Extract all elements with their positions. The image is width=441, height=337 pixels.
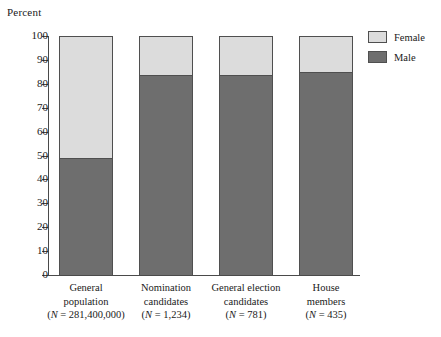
- stacked-bar[interactable]: [59, 36, 113, 275]
- stacked-bar-chart-figure: Percent 0102030405060708090100 Generalpo…: [0, 0, 441, 337]
- legend-swatch-female: [368, 31, 387, 43]
- bar-segment-male[interactable]: [220, 75, 272, 275]
- stacked-bar[interactable]: [219, 36, 273, 275]
- y-tick-label: 80: [10, 78, 48, 89]
- y-tick-label: 40: [10, 173, 48, 184]
- x-axis-line: [48, 275, 360, 276]
- category-label-line: House: [267, 281, 385, 295]
- y-tick-label: 60: [10, 126, 48, 137]
- y-tick-label: 30: [10, 197, 48, 208]
- y-tick-label: 10: [10, 245, 48, 256]
- y-tick-label: 0: [10, 269, 48, 280]
- stacked-bar[interactable]: [299, 36, 353, 275]
- bar-segment-male[interactable]: [60, 158, 112, 275]
- legend-swatch-male: [368, 51, 387, 63]
- legend-item-female: Female: [368, 28, 425, 46]
- category-sample-size: (N = 435): [267, 308, 385, 322]
- legend-item-male: Male: [368, 48, 425, 66]
- y-tick-label: 100: [10, 30, 48, 41]
- legend-label-female: Female: [394, 32, 425, 43]
- category-label-line: members: [267, 295, 385, 309]
- bar-segment-male[interactable]: [140, 75, 192, 275]
- y-tick-label: 20: [10, 221, 48, 232]
- y-tick-label: 50: [10, 150, 48, 161]
- bar-segment-male[interactable]: [300, 72, 352, 275]
- chart-legend: Female Male: [368, 28, 425, 68]
- stacked-bar[interactable]: [139, 36, 193, 275]
- x-category-label: Housemembers(N = 435): [267, 281, 385, 322]
- y-tick-label: 70: [10, 102, 48, 113]
- legend-label-male: Male: [394, 52, 416, 63]
- y-axis-line: [48, 36, 49, 276]
- y-tick-label: 90: [10, 54, 48, 65]
